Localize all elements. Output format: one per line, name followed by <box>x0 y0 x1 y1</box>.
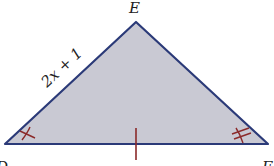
vertex-label-e: E <box>128 0 140 17</box>
triangle-diagram: E D F 2x + 1 <box>0 0 274 166</box>
vertex-label-d: D <box>0 158 8 166</box>
vertex-label-f: F <box>261 158 273 166</box>
